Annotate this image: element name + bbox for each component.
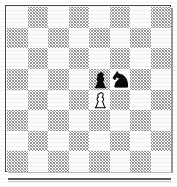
- board-square-g3[interactable]: [130, 110, 151, 131]
- board-square-h6[interactable]: [151, 48, 172, 69]
- board-square-b6[interactable]: [28, 48, 49, 69]
- board-square-b5[interactable]: [28, 69, 49, 90]
- board-square-f3[interactable]: [110, 110, 131, 131]
- board-square-d7[interactable]: [69, 28, 90, 49]
- diagram-baseline-rule: [8, 178, 171, 180]
- board-square-b8[interactable]: [28, 7, 49, 28]
- board-square-e4[interactable]: [89, 90, 110, 111]
- board-square-e6[interactable]: [89, 48, 110, 69]
- white-pawn-e4[interactable]: [89, 90, 110, 111]
- board-square-g6[interactable]: [130, 48, 151, 69]
- board-square-f6[interactable]: [110, 48, 131, 69]
- board-square-e8[interactable]: [89, 7, 110, 28]
- board-square-a3[interactable]: [7, 110, 28, 131]
- board-square-c7[interactable]: [48, 28, 69, 49]
- board-square-d2[interactable]: [69, 131, 90, 152]
- board-square-a1[interactable]: [7, 151, 28, 172]
- board-square-c8[interactable]: [48, 7, 69, 28]
- board-square-c3[interactable]: [48, 110, 69, 131]
- board-square-g4[interactable]: [130, 90, 151, 111]
- board-square-c2[interactable]: [48, 131, 69, 152]
- board-square-h3[interactable]: [151, 110, 172, 131]
- board-edge-shadow-bottom: [8, 172, 172, 173]
- board-edge-shadow-right: [171, 8, 173, 173]
- board-square-d6[interactable]: [69, 48, 90, 69]
- chessboard-grid[interactable]: [7, 7, 171, 172]
- board-square-f1[interactable]: [110, 151, 131, 172]
- board-square-d3[interactable]: [69, 110, 90, 131]
- board-square-f8[interactable]: [110, 7, 131, 28]
- board-square-a8[interactable]: [7, 7, 28, 28]
- board-square-b2[interactable]: [28, 131, 49, 152]
- board-square-h4[interactable]: [151, 90, 172, 111]
- black-pawn-e5[interactable]: [89, 69, 110, 90]
- board-square-b1[interactable]: [28, 151, 49, 172]
- board-square-e5[interactable]: [89, 69, 110, 90]
- board-square-a6[interactable]: [7, 48, 28, 69]
- chessboard-frame: [5, 5, 171, 172]
- board-square-e1[interactable]: [89, 151, 110, 172]
- board-square-d8[interactable]: [69, 7, 90, 28]
- board-square-g8[interactable]: [130, 7, 151, 28]
- board-square-e7[interactable]: [89, 28, 110, 49]
- board-square-c1[interactable]: [48, 151, 69, 172]
- board-square-a4[interactable]: [7, 90, 28, 111]
- board-square-c5[interactable]: [48, 69, 69, 90]
- board-square-a7[interactable]: [7, 28, 28, 49]
- board-square-e3[interactable]: [89, 110, 110, 131]
- board-square-f4[interactable]: [110, 90, 131, 111]
- board-square-d1[interactable]: [69, 151, 90, 172]
- board-square-f2[interactable]: [110, 131, 131, 152]
- board-square-d5[interactable]: [69, 69, 90, 90]
- board-square-e2[interactable]: [89, 131, 110, 152]
- board-square-g1[interactable]: [130, 151, 151, 172]
- board-square-f7[interactable]: [110, 28, 131, 49]
- board-square-b7[interactable]: [28, 28, 49, 49]
- board-square-h2[interactable]: [151, 131, 172, 152]
- board-square-b4[interactable]: [28, 90, 49, 111]
- chess-diagram-screenshot: [0, 0, 177, 187]
- board-square-b3[interactable]: [28, 110, 49, 131]
- board-square-d4[interactable]: [69, 90, 90, 111]
- board-square-a2[interactable]: [7, 131, 28, 152]
- board-square-g2[interactable]: [130, 131, 151, 152]
- board-square-h8[interactable]: [151, 7, 172, 28]
- board-square-a5[interactable]: [7, 69, 28, 90]
- board-square-f5[interactable]: [110, 69, 131, 90]
- board-square-h1[interactable]: [151, 151, 172, 172]
- board-square-c6[interactable]: [48, 48, 69, 69]
- board-square-g7[interactable]: [130, 28, 151, 49]
- board-square-c4[interactable]: [48, 90, 69, 111]
- board-square-h7[interactable]: [151, 28, 172, 49]
- board-square-h5[interactable]: [151, 69, 172, 90]
- diagram-baseline-rule-secondary: [8, 181, 171, 182]
- board-square-g5[interactable]: [130, 69, 151, 90]
- black-knight-f5[interactable]: [110, 69, 131, 90]
